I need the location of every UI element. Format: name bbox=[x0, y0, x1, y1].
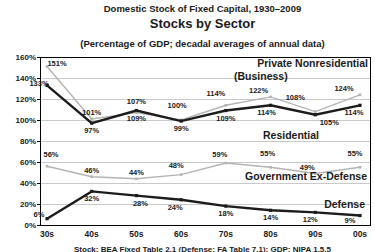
svg-text:Private Nonresidential: Private Nonresidential bbox=[257, 57, 368, 69]
svg-text:108%: 108% bbox=[286, 93, 306, 102]
svg-text:12%: 12% bbox=[303, 215, 318, 224]
svg-text:20%: 20% bbox=[20, 200, 36, 209]
svg-text:Residential: Residential bbox=[263, 129, 319, 141]
svg-text:48%: 48% bbox=[169, 161, 184, 170]
svg-text:24%: 24% bbox=[168, 203, 183, 212]
svg-text:114%: 114% bbox=[257, 108, 276, 117]
svg-text:105%: 105% bbox=[320, 118, 340, 127]
svg-text:114%: 114% bbox=[345, 108, 364, 117]
svg-text:30s: 30s bbox=[40, 229, 54, 239]
svg-text:56%: 56% bbox=[43, 150, 58, 159]
svg-text:124%: 124% bbox=[334, 84, 354, 93]
svg-text:55%: 55% bbox=[260, 149, 275, 158]
svg-text:99%: 99% bbox=[174, 124, 189, 133]
svg-text:122%: 122% bbox=[249, 86, 269, 95]
svg-text:133%: 133% bbox=[29, 79, 49, 88]
svg-text:00s: 00s bbox=[353, 229, 367, 239]
svg-text:60s: 60s bbox=[174, 229, 188, 239]
svg-text:151%: 151% bbox=[47, 59, 67, 68]
svg-text:14%: 14% bbox=[263, 213, 278, 222]
svg-text:160%: 160% bbox=[16, 53, 36, 62]
svg-text:109%: 109% bbox=[127, 114, 147, 123]
svg-text:6%: 6% bbox=[34, 210, 45, 219]
svg-text:59%: 59% bbox=[212, 150, 227, 159]
svg-text:114%: 114% bbox=[206, 89, 225, 98]
svg-text:18%: 18% bbox=[218, 209, 233, 218]
svg-text:70s: 70s bbox=[219, 229, 233, 239]
svg-text:60%: 60% bbox=[20, 158, 36, 167]
svg-text:40s: 40s bbox=[85, 229, 99, 239]
svg-text:107%: 107% bbox=[127, 97, 147, 106]
svg-text:32%: 32% bbox=[84, 194, 99, 203]
svg-text:100%: 100% bbox=[168, 101, 188, 110]
svg-text:120%: 120% bbox=[16, 95, 36, 104]
svg-text:101%: 101% bbox=[82, 108, 102, 117]
svg-text:55%: 55% bbox=[347, 149, 362, 158]
svg-text:0%: 0% bbox=[24, 221, 36, 230]
svg-text:90s: 90s bbox=[308, 229, 322, 239]
svg-text:97%: 97% bbox=[84, 126, 99, 135]
svg-text:100%: 100% bbox=[16, 116, 36, 125]
svg-text:80s: 80s bbox=[263, 229, 277, 239]
svg-text:44%: 44% bbox=[129, 168, 144, 177]
capital-stock-figure: Domestic Stock of Fixed Capital, 1930–20… bbox=[0, 0, 375, 252]
svg-text:109%: 109% bbox=[216, 114, 236, 123]
svg-text:(Business): (Business) bbox=[234, 70, 288, 82]
svg-text:9%: 9% bbox=[345, 216, 356, 225]
stocks-by-sector-line-chart: 0%20%40%60%80%100%120%140%160%30s40s50s6… bbox=[0, 0, 375, 252]
svg-text:Government Ex-Defense: Government Ex-Defense bbox=[245, 170, 367, 182]
svg-text:28%: 28% bbox=[133, 199, 148, 208]
source-note: Stock: BEA Fixed Table 2.1 (Defense: FA … bbox=[30, 245, 375, 252]
svg-text:46%: 46% bbox=[84, 166, 99, 175]
svg-text:Defense: Defense bbox=[324, 198, 365, 210]
svg-text:80%: 80% bbox=[20, 137, 36, 146]
svg-text:50s: 50s bbox=[129, 229, 143, 239]
svg-text:40%: 40% bbox=[20, 179, 36, 188]
